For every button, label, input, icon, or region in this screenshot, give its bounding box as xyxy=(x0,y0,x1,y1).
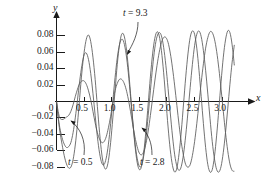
curve-annotation-t93: t = 9.3 xyxy=(123,8,148,18)
x-axis-label: x xyxy=(256,92,260,103)
y-tick-label: −0.08 xyxy=(2,161,54,171)
curve-annotation-t28: t = 2.8 xyxy=(140,157,165,167)
oscillation-plot xyxy=(0,0,274,182)
y-axis-label: y xyxy=(53,2,57,13)
y-tick-label: 0.06 xyxy=(2,46,54,56)
x-axis-arrow xyxy=(248,98,256,104)
y-tick-label: −0.04 xyxy=(2,128,54,138)
x-tick-label: 2.5 xyxy=(187,103,199,113)
leader-t93 xyxy=(127,22,138,54)
y-tick-label: 0.08 xyxy=(2,29,54,39)
leader-t05 xyxy=(71,121,84,155)
curve-annotation-t05: t = 0.5 xyxy=(68,157,93,167)
y-tick-label: −0.02 xyxy=(2,111,54,121)
x-tick-label: 1.0 xyxy=(104,103,116,113)
chart-figure: x y t = 9.3 t = 0.5 t = 2.8 0.080.060.04… xyxy=(0,0,274,182)
y-tick-label: 0.02 xyxy=(2,79,54,89)
x-tick-label: 3.0 xyxy=(214,103,226,113)
x-tick-label: 2.0 xyxy=(159,103,171,113)
annotation-leaders xyxy=(69,22,152,155)
x-tick-label: 0.5 xyxy=(76,103,88,113)
axes-group xyxy=(53,11,255,167)
x-tick-label: 1.5 xyxy=(131,103,143,113)
y-tick-label: 0.04 xyxy=(2,62,54,72)
y-tick-label: −0.06 xyxy=(2,144,54,154)
